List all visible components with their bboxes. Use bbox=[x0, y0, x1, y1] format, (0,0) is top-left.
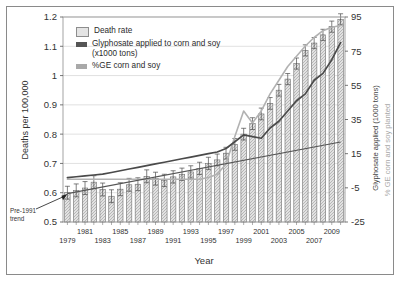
svg-text:35: 35 bbox=[351, 114, 362, 125]
svg-text:1999: 1999 bbox=[236, 236, 252, 245]
svg-text:Year: Year bbox=[194, 255, 213, 266]
svg-text:1979: 1979 bbox=[59, 236, 75, 245]
svg-text:1983: 1983 bbox=[95, 236, 111, 245]
svg-text:2009: 2009 bbox=[324, 227, 340, 236]
svg-text:55: 55 bbox=[351, 80, 362, 91]
svg-text:95: 95 bbox=[351, 11, 362, 22]
legend-item-ge: %GE corn and soy bbox=[76, 61, 242, 71]
svg-text:15: 15 bbox=[351, 148, 362, 159]
svg-text:0.8: 0.8 bbox=[44, 129, 57, 140]
legend-swatch-death-rate bbox=[76, 27, 89, 37]
svg-text:1: 1 bbox=[52, 70, 57, 81]
legend-item-glyphosate: Glyphosate applied to corn and soy (x100… bbox=[76, 39, 242, 59]
svg-text:1991: 1991 bbox=[165, 236, 181, 245]
svg-text:2001: 2001 bbox=[253, 227, 269, 236]
svg-text:0.5: 0.5 bbox=[44, 216, 57, 227]
svg-text:0.6: 0.6 bbox=[44, 187, 57, 198]
svg-text:trend: trend bbox=[10, 215, 25, 222]
svg-text:1997: 1997 bbox=[218, 227, 234, 236]
legend-label-glyphosate: Glyphosate applied to corn and soy (x100… bbox=[92, 39, 242, 59]
svg-text:1987: 1987 bbox=[130, 236, 146, 245]
svg-text:2005: 2005 bbox=[288, 227, 304, 236]
svg-text:2007: 2007 bbox=[306, 236, 322, 245]
legend: Death rate Glyphosate applied to corn an… bbox=[76, 26, 242, 71]
legend-swatch-ge bbox=[76, 64, 87, 69]
annotation-pre1991: Pre-1991trend bbox=[10, 194, 67, 222]
svg-text:Glyphosate applied (1000 tons): Glyphosate applied (1000 tons) bbox=[371, 85, 380, 191]
legend-label-ge: %GE corn and soy bbox=[92, 61, 160, 71]
svg-text:1981: 1981 bbox=[77, 227, 93, 236]
svg-text:% GE corn and soy planted: % GE corn and soy planted bbox=[383, 104, 392, 196]
legend-item-death-rate: Death rate bbox=[76, 26, 242, 37]
svg-text:2003: 2003 bbox=[271, 236, 287, 245]
svg-text:1.2: 1.2 bbox=[44, 11, 57, 22]
legend-swatch-glyphosate bbox=[76, 42, 87, 47]
svg-text:1989: 1989 bbox=[147, 227, 163, 236]
svg-text:Pre-1991: Pre-1991 bbox=[10, 207, 36, 214]
svg-text:-5: -5 bbox=[351, 182, 359, 193]
svg-text:75: 75 bbox=[351, 46, 362, 57]
legend-label-death-rate: Death rate bbox=[94, 26, 132, 36]
svg-text:1995: 1995 bbox=[200, 236, 216, 245]
svg-text:1993: 1993 bbox=[183, 227, 199, 236]
svg-text:1985: 1985 bbox=[112, 227, 128, 236]
svg-text:0.7: 0.7 bbox=[44, 158, 57, 169]
svg-text:0.9: 0.9 bbox=[44, 99, 57, 110]
svg-text:Deaths per 100,000: Deaths per 100,000 bbox=[20, 80, 30, 159]
figure-container: 0.50.60.70.80.911.11.2-25-51535557595197… bbox=[0, 0, 402, 283]
svg-text:-25: -25 bbox=[351, 216, 365, 227]
svg-text:1.1: 1.1 bbox=[44, 41, 57, 52]
